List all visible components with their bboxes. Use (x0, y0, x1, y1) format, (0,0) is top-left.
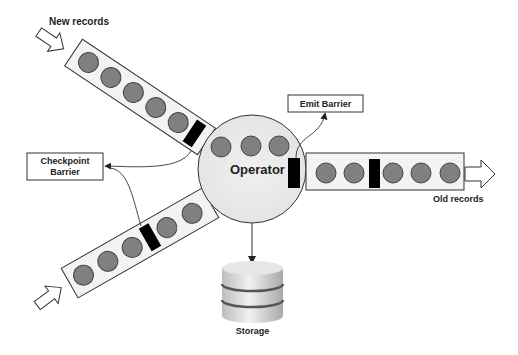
input-queue-2 (61, 188, 219, 298)
output-arrow-icon (465, 160, 495, 188)
checkpoint-barrier-label-line1: Checkpoint (40, 156, 89, 166)
checkpoint-barrier (369, 159, 380, 188)
record (383, 163, 403, 183)
checkpoint-connector-top (106, 151, 191, 167)
storage-database-icon (222, 261, 283, 323)
checkpoint-connector-bottom (110, 168, 141, 226)
input-queue-1 (65, 39, 216, 155)
input-arrow-icon (31, 279, 68, 315)
old-records-label: Old records (433, 194, 484, 204)
record (316, 163, 336, 183)
operator-label: Operator (230, 162, 285, 177)
record (440, 163, 460, 183)
emit-barrier-label: Emit Barrier (300, 99, 352, 109)
record (269, 136, 289, 156)
new-records-label: New records (49, 16, 109, 27)
record (411, 163, 431, 183)
storage-label: Storage (236, 326, 270, 336)
record (211, 137, 231, 157)
record (241, 136, 261, 156)
output-queue (306, 153, 464, 190)
record (344, 163, 364, 183)
checkpoint-barrier-label-line2: Barrier (50, 167, 80, 177)
diagram-canvas: New records Operator (0, 0, 518, 355)
input-arrow-icon (33, 23, 70, 58)
emitted-barrier (288, 158, 300, 188)
